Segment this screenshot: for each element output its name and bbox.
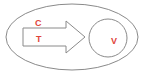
inner-circle xyxy=(89,19,127,57)
diagram-canvas: C T V xyxy=(0,0,145,77)
arrow-shape xyxy=(23,21,85,53)
outer-ellipse xyxy=(6,4,138,70)
label-t: T xyxy=(36,34,42,44)
label-v: V xyxy=(111,36,117,46)
label-c: C xyxy=(35,18,42,28)
